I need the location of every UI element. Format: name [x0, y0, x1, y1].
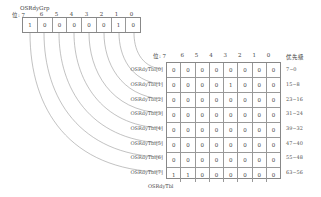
table-row: 00000000 — [167, 108, 280, 123]
priority-range: 63~56 — [286, 169, 303, 175]
grp-cell: 1 — [23, 18, 38, 32]
cell: 0 — [238, 78, 252, 92]
cell: 0 — [224, 93, 238, 107]
priority-range: 47~40 — [286, 140, 303, 146]
tbl-bit-header: 位: 7 6 5 4 3 2 1 0 — [153, 52, 276, 60]
cell: 0 — [181, 153, 195, 167]
cell: 0 — [267, 63, 280, 77]
cell: 0 — [253, 123, 267, 137]
row-label: OSRdyTbl[0] — [130, 66, 163, 72]
cell: 1 — [224, 78, 238, 92]
cell: 0 — [238, 108, 252, 122]
table-row: 00000000 — [167, 153, 280, 168]
cell: 0 — [253, 153, 267, 167]
priority-range: 31~24 — [286, 110, 303, 116]
grp-cell: 0 — [67, 18, 82, 32]
cell: 0 — [167, 63, 181, 77]
cell: 0 — [253, 108, 267, 122]
curve-bit0 — [134, 33, 162, 69]
cell: 0 — [210, 153, 224, 167]
cell: 0 — [267, 78, 280, 92]
cell: 0 — [167, 108, 181, 122]
cell: 0 — [167, 153, 181, 167]
cell: 0 — [210, 63, 224, 77]
table-row: 11000000 — [167, 168, 280, 182]
cell: 0 — [167, 123, 181, 137]
cell: 0 — [181, 78, 195, 92]
row-label: OSRdyTbl[4] — [130, 125, 163, 131]
cell: 0 — [238, 63, 252, 77]
table-row: 00001000 — [167, 78, 280, 93]
cell: 0 — [253, 93, 267, 107]
cell: 0 — [181, 138, 195, 152]
table-row: 00000000 — [167, 138, 280, 153]
cell: 0 — [196, 138, 210, 152]
priority-range: 55~48 — [286, 154, 303, 160]
grp-register: 1 0 0 0 0 0 1 0 — [22, 17, 141, 33]
curve-bit6 — [44, 33, 162, 157]
cell: 0 — [210, 138, 224, 152]
cell: 0 — [253, 168, 267, 182]
cell: 0 — [224, 168, 238, 182]
priority-range: 39~32 — [286, 125, 303, 131]
cell: 0 — [238, 153, 252, 167]
cell: 0 — [267, 108, 280, 122]
table-row: 00000000 — [167, 63, 280, 78]
cell: 0 — [196, 63, 210, 77]
row-label: OSRdyTbl[5] — [130, 140, 163, 146]
cell: 0 — [210, 168, 224, 182]
priority-range: 7~0 — [286, 66, 297, 72]
cell: 0 — [196, 168, 210, 182]
cell: 0 — [196, 78, 210, 92]
table-row: 00000000 — [167, 123, 280, 138]
cell: 0 — [196, 153, 210, 167]
cell: 0 — [181, 108, 195, 122]
curve-bit7 — [30, 33, 162, 172]
grp-cell: 0 — [82, 18, 97, 32]
priority-range: 23~16 — [286, 96, 303, 102]
row-label: OSRdyTbl[1] — [130, 81, 163, 87]
row-label: OSRdyTbl[2] — [130, 96, 163, 102]
grp-cell: 0 — [53, 18, 68, 32]
cell: 0 — [267, 168, 280, 182]
cell: 0 — [224, 153, 238, 167]
cell: 0 — [253, 138, 267, 152]
cell: 0 — [224, 63, 238, 77]
cell: 0 — [210, 93, 224, 107]
cell: 0 — [210, 78, 224, 92]
cell: 0 — [267, 93, 280, 107]
table-caption: OSRdyTbl — [148, 183, 173, 189]
cell: 0 — [224, 108, 238, 122]
cell: 0 — [210, 123, 224, 137]
row-label: OSRdyTbl[3] — [130, 110, 163, 116]
cell: 0 — [167, 93, 181, 107]
cell: 0 — [196, 123, 210, 137]
grp-cell: 1 — [112, 18, 127, 32]
cell: 0 — [196, 93, 210, 107]
cell: 0 — [253, 78, 267, 92]
cell: 0 — [224, 138, 238, 152]
grp-cell: 0 — [126, 18, 140, 32]
cell: 0 — [210, 108, 224, 122]
grp-cell: 0 — [97, 18, 112, 32]
cell: 0 — [238, 123, 252, 137]
row-label: OSRdyTbl[7] — [130, 169, 163, 175]
cell: 0 — [253, 63, 267, 77]
cell: 0 — [267, 153, 280, 167]
cell: 0 — [181, 123, 195, 137]
cell: 1 — [167, 168, 181, 182]
cell: 0 — [267, 123, 280, 137]
cell: 0 — [267, 138, 280, 152]
cell: 0 — [238, 93, 252, 107]
rdy-table: 00000000 00001000 00000000 00000000 0000… — [166, 62, 281, 179]
priority-range: 15~8 — [286, 81, 300, 87]
cell: 0 — [181, 63, 195, 77]
cell: 0 — [167, 138, 181, 152]
cell: 0 — [167, 78, 181, 92]
cell: 0 — [224, 123, 238, 137]
grp-cell: 0 — [38, 18, 53, 32]
cell: 0 — [181, 93, 195, 107]
cell: 0 — [196, 108, 210, 122]
row-label: OSRdyTbl[6] — [130, 154, 163, 160]
priority-header: 优先级 — [286, 54, 304, 60]
